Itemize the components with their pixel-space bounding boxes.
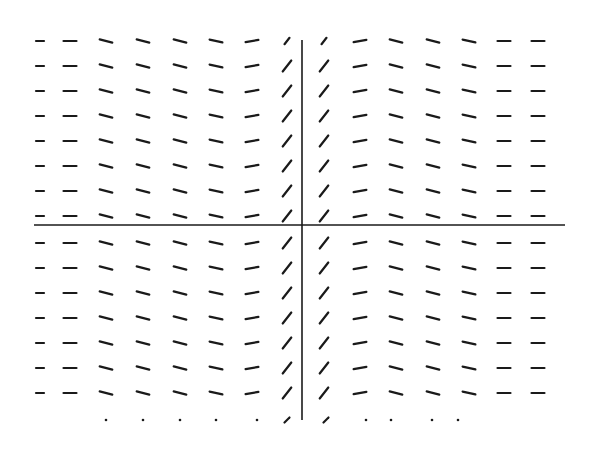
slope-segment <box>283 363 292 374</box>
slope-segment <box>320 161 329 172</box>
slope-segment <box>427 366 440 369</box>
slope-segment <box>463 140 476 143</box>
slope-segment <box>283 388 292 399</box>
slope-segment <box>390 189 403 192</box>
slope-segment <box>174 291 187 294</box>
slope-segment <box>174 341 187 344</box>
slope-segment <box>427 39 440 42</box>
slope-segment <box>322 38 327 44</box>
slope-segment <box>463 65 476 68</box>
slope-segment <box>427 139 440 142</box>
slope-segment <box>354 392 367 394</box>
slope-segment <box>320 86 329 97</box>
slope-segment <box>174 139 187 142</box>
slope-dot <box>390 419 393 422</box>
slope-segment <box>283 288 292 299</box>
slope-segment <box>100 241 113 244</box>
slope-segment <box>100 139 113 142</box>
slope-segment <box>285 38 290 44</box>
slope-segment <box>174 114 187 117</box>
slope-segment <box>246 242 259 244</box>
slope-segment <box>137 114 150 117</box>
slope-segment <box>246 115 259 117</box>
slope-segment <box>320 363 329 374</box>
slope-segment <box>320 288 329 299</box>
slope-segment <box>210 90 223 93</box>
slope-segment <box>137 366 150 369</box>
slope-segment <box>100 266 113 269</box>
slope-segment <box>246 140 259 142</box>
slope-segment <box>283 186 292 197</box>
slope-segment <box>210 242 223 245</box>
slope-segment <box>354 140 367 142</box>
slope-segment <box>390 89 403 92</box>
slope-segment <box>390 241 403 244</box>
slope-field-plot <box>0 0 597 453</box>
slope-segment <box>283 263 292 274</box>
slope-segment <box>427 64 440 67</box>
slope-segment <box>354 190 367 192</box>
slope-segment <box>390 139 403 142</box>
slope-segment <box>100 391 113 394</box>
slope-segment <box>354 215 367 217</box>
slope-segments <box>36 38 545 423</box>
slope-segment <box>390 266 403 269</box>
slope-segment <box>100 291 113 294</box>
slope-segment <box>354 242 367 244</box>
slope-segment <box>463 292 476 295</box>
slope-segment <box>463 342 476 345</box>
slope-segment <box>246 90 259 92</box>
slope-segment <box>283 238 292 249</box>
slope-segment <box>354 367 367 369</box>
slope-segment <box>137 316 150 319</box>
slope-segment <box>390 291 403 294</box>
slope-segment <box>463 392 476 395</box>
slope-segment <box>100 164 113 167</box>
slope-segment <box>427 316 440 319</box>
slope-segment <box>354 342 367 344</box>
slope-segment <box>246 40 259 42</box>
slope-segment <box>427 89 440 92</box>
slope-segment <box>390 114 403 117</box>
slope-segment <box>210 140 223 143</box>
slope-segment <box>137 164 150 167</box>
slope-segment <box>427 241 440 244</box>
slope-segment <box>174 214 187 217</box>
slope-segment <box>320 388 329 399</box>
slope-segment <box>463 40 476 43</box>
slope-segment <box>246 267 259 269</box>
slope-segment <box>210 267 223 270</box>
slope-segment <box>210 292 223 295</box>
slope-segment <box>100 214 113 217</box>
slope-segment <box>354 292 367 294</box>
slope-segment <box>210 115 223 118</box>
slope-segment <box>210 342 223 345</box>
slope-segment <box>210 215 223 218</box>
slope-segment <box>463 267 476 270</box>
slope-segment <box>354 317 367 319</box>
slope-field-diagram <box>0 0 597 453</box>
slope-segment <box>283 86 292 97</box>
slope-segment <box>174 366 187 369</box>
slope-dot <box>105 419 108 422</box>
slope-dot <box>142 419 145 422</box>
slope-segment <box>210 190 223 193</box>
slope-segment <box>320 238 329 249</box>
slope-segment <box>100 316 113 319</box>
slope-segment <box>320 61 329 72</box>
slope-segment <box>427 164 440 167</box>
slope-segment <box>463 190 476 193</box>
slope-segment <box>463 115 476 118</box>
slope-segment <box>427 291 440 294</box>
slope-segment <box>100 189 113 192</box>
slope-segment <box>390 64 403 67</box>
slope-segment <box>174 241 187 244</box>
slope-segment <box>427 391 440 394</box>
slope-segment <box>137 89 150 92</box>
slope-segment <box>137 39 150 42</box>
slope-segment <box>174 39 187 42</box>
slope-segment <box>210 165 223 168</box>
slope-segment <box>285 418 290 423</box>
slope-segment <box>174 189 187 192</box>
slope-dot <box>179 419 182 422</box>
